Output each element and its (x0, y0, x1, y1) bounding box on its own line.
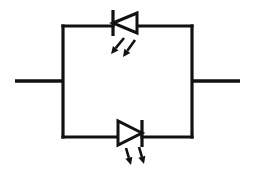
led-top-triangle-icon (113, 13, 137, 33)
light-arrow-icon (138, 147, 145, 164)
light-arrow-icon (125, 148, 132, 165)
light-arrow-icon (111, 38, 124, 54)
led-bottom-triangle-icon (118, 121, 142, 145)
led-top-emission-arrows (111, 38, 135, 57)
light-arrow-icon (123, 40, 135, 57)
led-bottom-emission-arrows (125, 147, 145, 165)
schematic-canvas (0, 0, 255, 173)
circuit-diagram (0, 0, 255, 173)
led-top (111, 10, 137, 57)
led-bottom (118, 120, 145, 165)
parallel-branch-rectangle (63, 26, 192, 137)
